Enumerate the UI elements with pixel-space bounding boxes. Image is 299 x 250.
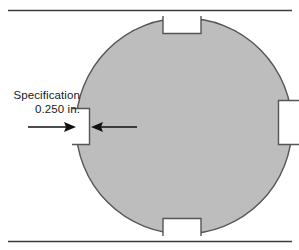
diagram-canvas	[0, 0, 299, 250]
specification-callout: Specification 0.250 in.	[4, 88, 80, 116]
specification-label-line1: Specification	[4, 88, 80, 102]
disk-body	[76, 18, 292, 234]
specification-diagram: Specification 0.250 in.	[0, 0, 299, 250]
specification-label-line2: 0.250 in.	[4, 102, 80, 116]
callout-arrow-right	[28, 122, 76, 132]
